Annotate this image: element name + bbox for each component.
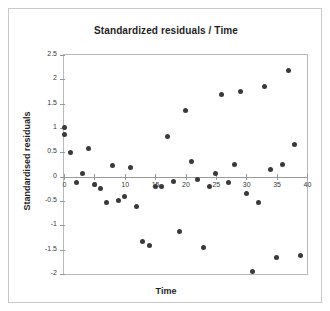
data-point <box>62 132 67 137</box>
x-tick: 30 <box>246 174 247 180</box>
y-tick-label: 0 <box>35 172 57 179</box>
y-tick-label: 2.5 <box>35 50 57 57</box>
y-axis-label: Standardised residuals <box>22 96 32 226</box>
y-tick-label: -2 <box>35 269 57 276</box>
x-tick-label: 10 <box>121 181 129 188</box>
data-point <box>147 243 152 248</box>
y-tick-label: 1.5 <box>35 99 57 106</box>
y-tick: -1 <box>60 225 65 226</box>
data-point <box>207 184 212 189</box>
x-tick-label: 0 <box>63 181 67 188</box>
data-point <box>104 200 109 205</box>
x-tick-label: 35 <box>273 181 281 188</box>
data-point <box>213 171 218 176</box>
plot-area: 2.521.510.50-0.5-1-1.5-2 051015202530354… <box>63 54 308 275</box>
data-point <box>98 186 103 191</box>
y-tick: 2.5 <box>60 55 65 56</box>
data-point <box>74 180 79 185</box>
data-point <box>165 134 170 139</box>
x-tick: 10 <box>125 174 126 180</box>
x-axis-label: Time <box>9 286 323 296</box>
y-tick-label: 1 <box>35 123 57 130</box>
y-tick-label: -0.5 <box>35 196 57 203</box>
y-tick: 2 <box>60 79 65 80</box>
x-tick-label: 40 <box>304 181 312 188</box>
data-point <box>232 162 237 167</box>
data-point <box>274 255 279 260</box>
x-tick: 40 <box>307 174 308 180</box>
data-point <box>189 159 194 164</box>
data-point <box>140 239 145 244</box>
x-tick: 5 <box>94 174 95 180</box>
data-point <box>177 229 182 234</box>
data-point <box>286 68 291 73</box>
data-point <box>183 108 188 113</box>
data-point <box>159 184 164 189</box>
y-tick: -0.5 <box>60 201 65 202</box>
x-tick: 0 <box>64 174 65 180</box>
data-point <box>250 269 255 274</box>
x-tick: 15 <box>155 174 156 180</box>
y-tick-label: -1 <box>35 220 57 227</box>
x-tick-label: 25 <box>212 181 220 188</box>
x-tick-label: 20 <box>182 181 190 188</box>
y-tick-label: -1.5 <box>35 245 57 252</box>
data-point <box>298 253 303 258</box>
data-point <box>262 84 267 89</box>
data-point <box>226 180 231 185</box>
data-point <box>68 150 73 155</box>
data-point <box>238 89 243 94</box>
data-point <box>292 142 297 147</box>
data-point <box>134 204 139 209</box>
y-tick-label: 0.5 <box>35 147 57 154</box>
y-tick-label: 2 <box>35 74 57 81</box>
chart-figure: Standardized residuals / Time Standardis… <box>8 8 322 303</box>
data-point <box>256 200 261 205</box>
data-point <box>219 92 224 97</box>
data-point <box>116 198 121 203</box>
data-point <box>171 179 176 184</box>
x-tick: 35 <box>277 174 278 180</box>
y-tick: -1.5 <box>60 250 65 251</box>
data-point <box>268 167 273 172</box>
data-point <box>122 194 127 199</box>
y-tick: 1.5 <box>60 104 65 105</box>
y-tick: -2 <box>60 274 65 275</box>
data-point <box>62 125 67 130</box>
data-point <box>244 191 249 196</box>
data-point <box>110 163 115 168</box>
data-point <box>128 165 133 170</box>
data-point <box>280 162 285 167</box>
data-point <box>153 184 158 189</box>
data-point <box>86 146 91 151</box>
data-point <box>92 182 97 187</box>
x-tick: 20 <box>186 174 187 180</box>
chart-title: Standardized residuals / Time <box>9 25 323 36</box>
data-point <box>80 171 85 176</box>
data-point <box>201 245 206 250</box>
y-tick: 0.5 <box>60 152 65 153</box>
x-tick-label: 30 <box>243 181 251 188</box>
data-point <box>195 177 200 182</box>
